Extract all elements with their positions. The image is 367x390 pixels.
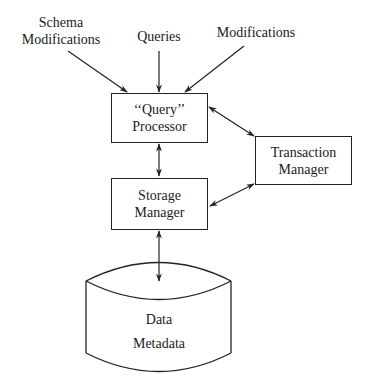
label-line: Modifications (6, 31, 116, 48)
storage-manager-line1: Storage (138, 187, 181, 204)
database-label: Data Metadata (109, 308, 209, 356)
database-metadata-label: Metadata (109, 332, 209, 356)
storage-manager-box: Storage Manager (111, 178, 208, 230)
query-processor-line2: Processor (132, 118, 186, 135)
query-processor-box: ‘‘Query’’ Processor (111, 93, 208, 143)
label-schema-modifications: Schema Modifications (6, 14, 116, 48)
transaction-manager-line1: Transaction (271, 144, 337, 161)
transaction-manager-box: Transaction Manager (255, 136, 352, 185)
database-data-label: Data (109, 308, 209, 332)
arrow-query-transaction (209, 107, 254, 136)
arrow-storage-transaction (210, 184, 254, 206)
query-processor-line1: ‘‘Query’’ (134, 101, 186, 118)
label-line: Schema (6, 14, 116, 31)
arrow-schema-to-query (68, 51, 127, 92)
label-modifications: Modifications (206, 24, 306, 41)
label-queries: Queries (124, 28, 194, 45)
transaction-manager-line2: Manager (279, 161, 329, 178)
storage-manager-line2: Manager (135, 204, 185, 221)
arrow-modifications-to-query (185, 46, 244, 92)
